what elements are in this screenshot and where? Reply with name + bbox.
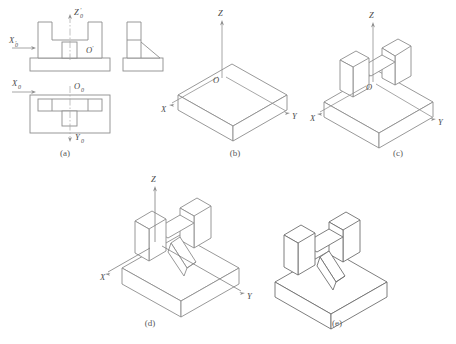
technical-drawing-figure: X ′ 0 Z ′ 0 O ′: [0, 0, 456, 344]
label-x-d: X: [99, 272, 106, 282]
y-axis-arrow-c: [430, 118, 436, 121]
label-x-front: X: [8, 35, 15, 45]
label-z-c: Z: [369, 10, 374, 20]
y-axis-arrow-d: [239, 292, 245, 295]
side-view-base: [123, 58, 163, 71]
front-view-rib: [62, 42, 77, 58]
panel-c-isometric-u-block: Z X Y O: [310, 0, 456, 150]
panel-b-isometric-base: Z X Y O: [160, 0, 310, 150]
label-y-d: Y: [247, 291, 253, 301]
caption-b: (b): [215, 148, 255, 158]
label-o-c: O: [366, 82, 372, 92]
label-z-front: Z: [74, 7, 79, 17]
label-z-d: Z: [151, 174, 156, 184]
label-x-front-sub: 0: [15, 42, 18, 48]
label-x-b: X: [160, 104, 167, 114]
label-o-b: O: [213, 75, 219, 85]
y-axis-arrow-b: [284, 112, 290, 115]
label-y-b: Y: [292, 111, 298, 121]
caption-c: (c): [378, 148, 418, 158]
caption-d: (d): [130, 318, 170, 328]
label-o-top-sub: 0: [81, 87, 84, 93]
label-y-top-sub: 0: [81, 138, 84, 144]
panel-e-final-solid: [265, 180, 425, 320]
label-z-b: Z: [218, 8, 223, 18]
caption-e: (e): [317, 318, 357, 328]
u-block-left-prong-left-face: [340, 60, 353, 97]
label-o-top: O: [74, 81, 80, 91]
side-view: [123, 22, 163, 71]
x-axis-arrow-b: [169, 104, 175, 107]
label-x-c: X: [309, 113, 316, 123]
label-y-c: Y: [438, 117, 444, 127]
panel-a-orthographic-views: X ′ 0 Z ′ 0 O ′: [0, 0, 175, 150]
label-x-top-sub: 0: [18, 84, 21, 90]
x-axis-arrow-c: [317, 113, 323, 116]
panel-d-isometric-with-rib: Z X Y: [100, 170, 270, 320]
label-x-top: X: [11, 78, 18, 88]
caption-a: (a): [45, 148, 85, 158]
x-axis-arrow-d: [105, 273, 111, 276]
label-z-front-sub: 0: [80, 13, 83, 19]
top-view-rib: [62, 111, 77, 126]
